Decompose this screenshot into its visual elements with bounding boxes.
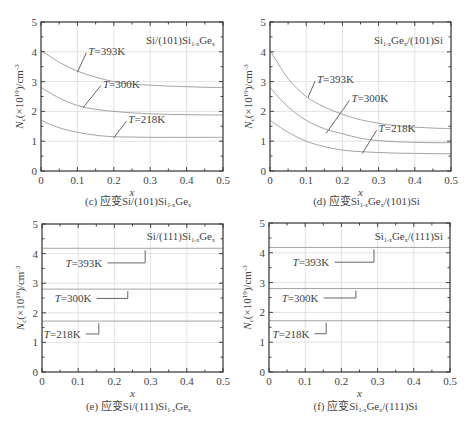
svg-text:0.2: 0.2 [108,375,122,387]
svg-text:0.4: 0.4 [407,375,421,387]
svg-text:5: 5 [32,16,38,28]
y-axis-title: Nc(×1019)/cm-3 [241,265,255,331]
figure-canvas: 00.10.20.30.40.5012345xNc(×1019)/cm-3Si/… [0,0,475,429]
label-t-300k: T=300K [351,92,388,104]
svg-text:0.1: 0.1 [71,174,85,186]
x-tick-labels: 00.10.20.30.40.5 [38,174,230,186]
panel-caption: (f) 应变Si1-xGex/(111)Si [314,399,418,413]
label-t-218k: T=218K [273,328,310,340]
svg-text:1: 1 [33,336,39,348]
temperature-annotations: T=393KT=300KT=218K [44,250,145,340]
y-axis-title: Nc(×1019)/cm-3 [14,265,28,331]
svg-text:0.2: 0.2 [336,174,350,186]
svg-text:0.3: 0.3 [371,375,385,387]
x-tick-labels: 00.10.20.30.40.5 [39,375,230,387]
leader-line [362,130,376,153]
svg-text:0.1: 0.1 [298,375,312,387]
leader-line [86,323,99,334]
inset-structure-label: Si1-xGex/(111)Si [375,230,443,243]
panel-f: 00.10.20.30.40.5012345xNc(×1019)/cm-3Si1… [241,217,457,413]
leader-line [83,86,101,108]
svg-text:0: 0 [33,366,39,378]
label-t-218k: T=218K [379,122,416,134]
panel-caption: (c) 应变Si/(101)Si1-xGex [85,194,191,208]
leader-line [324,291,356,298]
x-tick-labels: 00.10.20.30.40.5 [266,375,457,387]
panel-caption: (e) 应变Si/(111)Si1-xGex [86,399,191,413]
svg-text:1: 1 [32,135,38,147]
svg-text:0: 0 [38,174,44,186]
series-t-218k [270,120,451,153]
leader-line [77,53,86,72]
panel-e: 00.10.20.30.40.5012345xNc(×1019)/cm-3Si/… [14,218,230,413]
panel-c: 00.10.20.30.40.5012345xNc(×1019)/cm-3Si/… [13,16,230,208]
leader-line [108,250,146,263]
series-t-393k [270,50,451,128]
svg-text:0.3: 0.3 [144,375,158,387]
x-axis-title: x [356,387,362,399]
label-t-300k: T=300K [103,78,140,90]
leader-line [335,249,374,262]
label-t-393k: T=393K [293,256,330,268]
svg-text:1: 1 [261,135,267,147]
svg-text:4: 4 [260,247,266,259]
leader-line [114,121,127,137]
leader-line [326,100,349,133]
label-t-393k: T=393K [66,257,103,269]
y-tick-labels: 012345 [260,217,266,378]
panel-d: 00.10.20.30.40.5012345xNc(×1019)/cm-3Si1… [242,16,458,208]
svg-text:4: 4 [32,46,38,58]
leader-line [97,291,128,298]
svg-text:0: 0 [32,165,38,177]
svg-text:4: 4 [33,248,39,260]
leader-line [308,81,315,97]
inset-structure-label: Si/(111)Si1-xGex [147,230,215,243]
svg-text:3: 3 [33,277,39,289]
svg-text:1: 1 [260,336,266,348]
label-t-218k: T=218K [44,328,81,340]
label-t-393k: T=393K [88,45,125,57]
inset-structure-label: Si/(101)Si1-xGex [146,34,215,47]
inset-structure-label: Si1-xGex/(101)Si [374,34,443,47]
svg-text:5: 5 [260,217,266,229]
svg-text:3: 3 [32,76,38,88]
svg-text:0.1: 0.1 [299,174,313,186]
svg-text:0.3: 0.3 [143,174,157,186]
series-t-300k [41,88,223,115]
label-t-300k: T=300K [55,292,92,304]
svg-text:2: 2 [261,105,267,117]
temperature-annotations: T=393KT=300KT=218K [273,249,374,339]
svg-text:0.4: 0.4 [408,174,422,186]
svg-text:0: 0 [39,375,45,387]
svg-text:2: 2 [260,306,266,318]
svg-text:0.5: 0.5 [216,375,230,387]
svg-text:0.5: 0.5 [444,174,458,186]
leader-line [315,323,327,334]
svg-text:5: 5 [33,218,39,230]
svg-text:0: 0 [266,375,272,387]
svg-text:2: 2 [33,307,39,319]
svg-text:0.5: 0.5 [443,375,457,387]
y-axis-title: Nc(×1019)/cm-3 [13,64,27,130]
label-t-393k: T=393K [317,73,354,85]
svg-text:2: 2 [32,105,38,117]
x-tick-labels: 00.10.20.30.40.5 [267,174,458,186]
svg-text:4: 4 [261,46,267,58]
svg-text:0: 0 [267,174,273,186]
svg-text:0: 0 [260,366,266,378]
svg-text:0.4: 0.4 [180,375,194,387]
label-t-300k: T=300K [282,292,319,304]
svg-text:3: 3 [260,277,266,289]
svg-text:0.5: 0.5 [216,174,230,186]
y-tick-labels: 012345 [33,218,39,378]
temperature-annotations: T=393KT=300KT=218K [77,45,165,138]
y-axis-title: Nc(×1019)/cm-3 [242,64,256,130]
panel-caption: (d) 应变Si1-xGex/(101)Si [313,194,420,208]
svg-text:0.4: 0.4 [180,174,194,186]
x-axis-title: x [129,387,135,399]
svg-text:0.3: 0.3 [372,174,386,186]
svg-text:0.2: 0.2 [335,375,349,387]
svg-text:5: 5 [261,16,267,28]
y-tick-labels: 012345 [261,16,267,177]
svg-text:3: 3 [261,76,267,88]
